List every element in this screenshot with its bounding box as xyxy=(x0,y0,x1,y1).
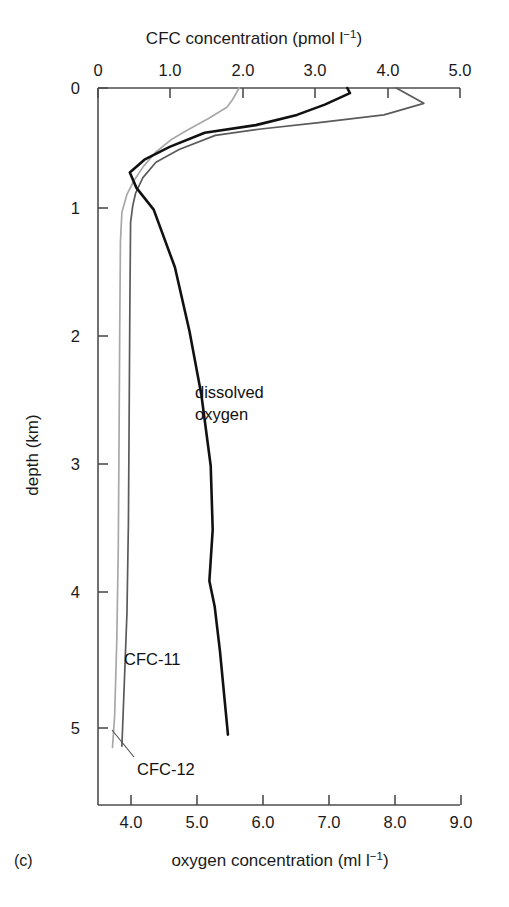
chart-background xyxy=(0,0,509,907)
bottom-tick-label-8: 8.0 xyxy=(384,813,407,831)
left-tick-label-1: 1 xyxy=(71,199,80,217)
bottom-axis-title: oxygen concentration (ml l−1) xyxy=(171,850,388,870)
left-tick-label-3: 3 xyxy=(71,455,80,473)
bottom-tick-label-7: 7.0 xyxy=(318,813,341,831)
top-tick-label-3: 3.0 xyxy=(304,61,327,79)
top-axis-title: CFC concentration (pmol l−1) xyxy=(146,28,362,48)
cfc-oxygen-depth-profile-chart: CFC concentration (pmol l−1) 0 1.0 2.0 3… xyxy=(0,0,509,907)
annotation-cfc-11: CFC-11 xyxy=(124,650,181,668)
bottom-tick-label-9: 9.0 xyxy=(450,813,473,831)
left-tick-label-4: 4 xyxy=(71,583,80,601)
top-axis-title-main: CFC concentration (pmol l xyxy=(146,29,343,48)
bottom-axis-title-superscript: −1 xyxy=(370,850,383,862)
top-axis-title-close: ) xyxy=(356,29,362,48)
top-tick-label-5: 5.0 xyxy=(449,61,472,79)
top-tick-label-1: 1.0 xyxy=(159,61,182,79)
annotation-dissolved-oxygen-line2: oxygen xyxy=(195,405,248,423)
annotation-dissolved-oxygen-line1: dissolved xyxy=(195,383,264,401)
annotation-cfc-12-label: CFC-12 xyxy=(137,760,195,778)
top-tick-label-4: 4.0 xyxy=(377,61,400,79)
top-axis-title-superscript: −1 xyxy=(343,28,356,40)
left-tick-label-5: 5 xyxy=(71,719,80,737)
figure-panel-c: CFC concentration (pmol l−1) 0 1.0 2.0 3… xyxy=(0,0,509,907)
top-tick-label-0: 0 xyxy=(93,61,102,79)
bottom-tick-label-4: 4.0 xyxy=(120,813,143,831)
top-tick-label-2: 2.0 xyxy=(232,61,255,79)
bottom-axis-title-close: ) xyxy=(383,851,389,870)
bottom-tick-label-6: 6.0 xyxy=(252,813,275,831)
panel-label-c: (c) xyxy=(14,852,33,869)
left-tick-label-0: 0 xyxy=(71,79,80,97)
left-axis-title: depth (km) xyxy=(23,414,42,495)
left-tick-label-2: 2 xyxy=(71,327,80,345)
bottom-tick-label-5: 5.0 xyxy=(186,813,209,831)
bottom-axis-title-main: oxygen concentration (ml l xyxy=(171,851,369,870)
